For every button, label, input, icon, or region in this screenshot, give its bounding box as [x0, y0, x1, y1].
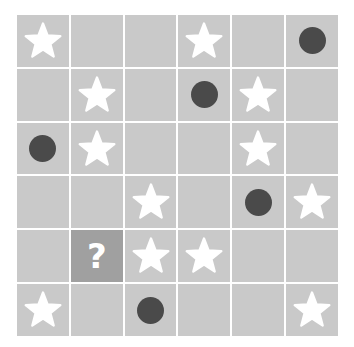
empty-cell [258, 310, 259, 311]
star-icon [293, 183, 331, 221]
grid-cell-r6-c5[interactable] [232, 284, 284, 336]
symbol-grid: ? [17, 15, 338, 336]
empty-cell [96, 40, 97, 41]
star-icon [239, 130, 277, 168]
grid-cell-r4-c2[interactable] [71, 176, 123, 228]
empty-cell [258, 40, 259, 41]
empty-cell [42, 256, 43, 257]
grid-cell-r2-c3[interactable] [125, 69, 177, 121]
grid-cell-r5-c1[interactable] [17, 230, 69, 282]
circle-icon [299, 27, 326, 54]
empty-cell [96, 202, 97, 203]
star-icon [293, 291, 331, 329]
grid-cell-r4-c1[interactable] [17, 176, 69, 228]
grid-cell-r3-c5[interactable] [232, 123, 284, 175]
star-icon [24, 291, 62, 329]
empty-cell [150, 148, 151, 149]
star-icon [78, 130, 116, 168]
grid-cell-r3-c3[interactable] [125, 123, 177, 175]
grid-cell-r3-c4[interactable] [178, 123, 230, 175]
grid-cell-r1-c3[interactable] [125, 15, 177, 67]
grid-cell-r3-c6[interactable] [286, 123, 338, 175]
star-icon [185, 237, 223, 275]
star-icon [24, 22, 62, 60]
circle-icon [29, 135, 56, 162]
empty-cell [258, 256, 259, 257]
empty-cell [204, 148, 205, 149]
grid-cell-r2-c6[interactable] [286, 69, 338, 121]
empty-cell [312, 94, 313, 95]
empty-cell [42, 94, 43, 95]
grid-cell-r3-c2[interactable] [71, 123, 123, 175]
grid-cell-r4-c3[interactable] [125, 176, 177, 228]
grid-cell-r2-c1[interactable] [17, 69, 69, 121]
empty-cell [42, 202, 43, 203]
grid-cell-r4-c5[interactable] [232, 176, 284, 228]
grid-cell-r6-c2[interactable] [71, 284, 123, 336]
star-icon [185, 22, 223, 60]
grid-cell-r5-c6[interactable] [286, 230, 338, 282]
star-icon [78, 76, 116, 114]
circle-icon [137, 297, 164, 324]
empty-cell [204, 202, 205, 203]
circle-icon [245, 189, 272, 216]
empty-cell [96, 310, 97, 311]
grid-cell-r2-c2[interactable] [71, 69, 123, 121]
empty-cell [204, 310, 205, 311]
empty-cell [150, 94, 151, 95]
grid-cell-r5-c3[interactable] [125, 230, 177, 282]
puzzle-grid-image: ? [0, 0, 354, 347]
grid-cell-r3-c1[interactable] [17, 123, 69, 175]
grid-cell-r1-c6[interactable] [286, 15, 338, 67]
empty-cell [312, 148, 313, 149]
grid-cell-r1-c5[interactable] [232, 15, 284, 67]
grid-cell-r5-c2[interactable]: ? [71, 230, 123, 282]
star-icon [132, 237, 170, 275]
grid-cell-r6-c1[interactable] [17, 284, 69, 336]
grid-cell-r6-c3[interactable] [125, 284, 177, 336]
grid-cell-r1-c2[interactable] [71, 15, 123, 67]
grid-cell-r1-c1[interactable] [17, 15, 69, 67]
grid-cell-r5-c5[interactable] [232, 230, 284, 282]
empty-cell [150, 40, 151, 41]
grid-cell-r5-c4[interactable] [178, 230, 230, 282]
grid-cell-r4-c6[interactable] [286, 176, 338, 228]
grid-cell-r2-c5[interactable] [232, 69, 284, 121]
empty-cell [312, 256, 313, 257]
grid-cell-r6-c6[interactable] [286, 284, 338, 336]
star-icon [132, 183, 170, 221]
grid-cell-r2-c4[interactable] [178, 69, 230, 121]
star-icon [239, 76, 277, 114]
grid-cell-r6-c4[interactable] [178, 284, 230, 336]
question-mark-icon: ? [87, 239, 107, 273]
circle-icon [191, 81, 218, 108]
grid-cell-r1-c4[interactable] [178, 15, 230, 67]
grid-cell-r4-c4[interactable] [178, 176, 230, 228]
